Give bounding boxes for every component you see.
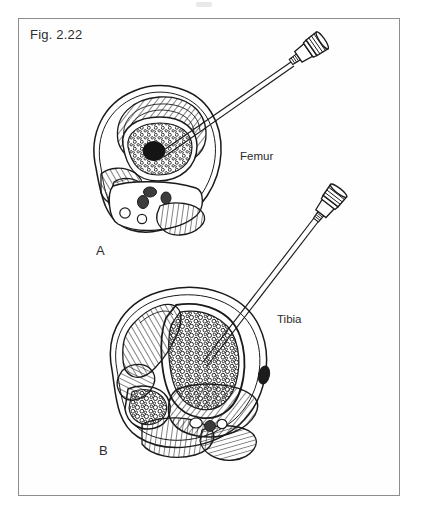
organ-label-femur: Femur [240, 150, 273, 162]
figure-frame [18, 18, 400, 496]
organ-label-tibia: Tibia [277, 313, 302, 325]
panel-letter-a: A [96, 243, 105, 258]
scan-artifact [196, 2, 212, 7]
figure-root: Fig. 2.22 A B Femur Tibia [0, 0, 423, 516]
panel-letter-b: B [99, 443, 108, 458]
figure-label: Fig. 2.22 [30, 27, 82, 42]
